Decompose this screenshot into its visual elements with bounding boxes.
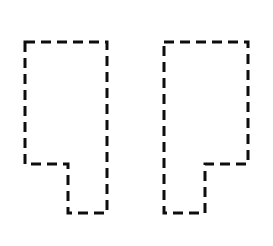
shape-canvas bbox=[0, 0, 273, 246]
shape-canvas-root bbox=[0, 0, 273, 246]
canvas-background bbox=[0, 0, 273, 246]
